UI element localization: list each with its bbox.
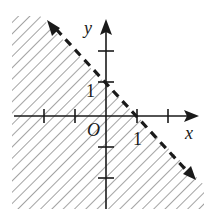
x-axis-label: x — [184, 123, 193, 143]
shaded-region — [12, 16, 204, 209]
y-tick-label: 1 — [86, 81, 95, 101]
inequality-graph: y x O 1 1 — [0, 0, 204, 209]
x-tick-label: 1 — [133, 129, 142, 149]
y-axis-label: y — [82, 18, 92, 38]
origin-label: O — [87, 120, 100, 140]
